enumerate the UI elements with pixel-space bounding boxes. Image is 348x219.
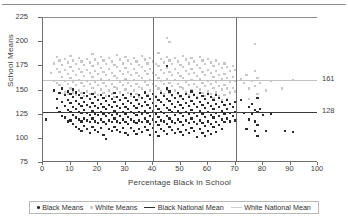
black-mean-point <box>193 94 195 96</box>
white-mean-point <box>188 84 190 86</box>
black-mean-point <box>80 120 82 122</box>
legend-item[interactable]: White Means <box>90 203 137 212</box>
black-mean-point <box>163 95 165 97</box>
legend-dot-icon <box>37 206 40 209</box>
black-mean-point <box>215 94 217 96</box>
black-mean-point <box>204 107 206 109</box>
white-mean-point <box>116 77 118 79</box>
black-mean-point <box>193 130 195 132</box>
black-mean-point <box>108 95 110 97</box>
white-mean-point <box>248 98 250 100</box>
black-mean-point <box>190 117 192 119</box>
white-mean-point <box>248 87 250 89</box>
black-mean-point <box>86 128 88 130</box>
black-mean-point <box>201 132 203 134</box>
white-mean-point <box>135 72 137 74</box>
chart-legend: Black MeansWhite MeansBlack National Mea… <box>29 201 319 214</box>
black-mean-point <box>119 107 121 109</box>
white-mean-point <box>243 82 245 84</box>
white-mean-point <box>105 85 107 87</box>
legend-item[interactable]: Black National Mean <box>144 203 223 212</box>
white-mean-point <box>116 54 118 56</box>
y-axis-tick-label: 150 <box>0 86 28 94</box>
white-mean-point <box>56 68 58 70</box>
black-mean-point <box>141 105 143 107</box>
black-mean-point <box>141 97 143 99</box>
black-mean-point <box>111 98 113 100</box>
white-mean-point <box>185 58 187 60</box>
black-mean-point <box>251 103 253 105</box>
black-mean-point <box>223 104 225 106</box>
black-mean-point <box>223 121 225 123</box>
x-axis-tick-mark <box>97 162 98 165</box>
black-mean-point <box>67 99 69 101</box>
black-mean-point <box>122 94 124 96</box>
x-axis-tick-label: 100 <box>305 165 329 173</box>
white-mean-point <box>67 61 69 63</box>
black-mean-point <box>133 96 135 98</box>
white-mean-point <box>94 58 96 60</box>
white-mean-point <box>177 72 179 74</box>
white-mean-point <box>111 72 113 74</box>
black-mean-point <box>196 106 198 108</box>
white-mean-point <box>144 70 146 72</box>
white-mean-point <box>232 87 234 89</box>
black-mean-point <box>111 121 113 123</box>
black-mean-point <box>157 135 159 137</box>
black-mean-point <box>75 100 77 102</box>
white-mean-point <box>210 72 212 74</box>
white-mean-point <box>223 62 225 64</box>
white-mean-point <box>157 52 159 54</box>
white-mean-point <box>207 69 209 71</box>
black-mean-point <box>105 123 107 125</box>
black-mean-point <box>163 120 165 122</box>
white-mean-point <box>201 71 203 73</box>
white-mean-point <box>163 72 165 74</box>
black-mean-point <box>218 124 220 126</box>
legend-item[interactable]: Black Means <box>37 203 83 212</box>
black-mean-point <box>215 131 217 133</box>
x-axis-tick-label: 90 <box>278 165 302 173</box>
black-mean-point <box>210 105 212 107</box>
black-mean-point <box>174 122 176 124</box>
scatter-plot-figure: School Means 75100125150175200225 010203… <box>0 0 348 219</box>
white-mean-point <box>174 89 176 91</box>
white-mean-point <box>215 59 217 61</box>
x-axis-tick-label: 70 <box>223 165 247 173</box>
black-mean-point <box>256 135 258 137</box>
black-mean-point <box>229 103 231 105</box>
black-mean-point <box>144 126 146 128</box>
black-mean-point <box>97 107 99 109</box>
white-mean-point <box>196 75 198 77</box>
black-mean-point <box>61 87 63 89</box>
plot-area <box>42 17 317 162</box>
white-mean-point <box>97 62 99 64</box>
white-mean-point <box>78 89 80 91</box>
black-mean-point <box>89 121 91 123</box>
legend-label: Black Means <box>42 203 83 212</box>
black-mean-point <box>188 96 190 98</box>
white-mean-point <box>78 57 80 59</box>
white-mean-point <box>171 63 173 65</box>
legend-item[interactable]: White National Mean <box>231 203 311 212</box>
white-mean-point <box>89 72 91 74</box>
white-mean-point <box>91 87 93 89</box>
white-mean-point <box>157 65 159 67</box>
top-rule-divider <box>2 4 346 5</box>
black-mean-point <box>72 96 74 98</box>
black-mean-point <box>127 123 129 125</box>
black-mean-point <box>226 108 228 110</box>
black-mean-point <box>168 100 170 102</box>
black-mean-point <box>135 99 137 101</box>
black-mean-point <box>185 129 187 131</box>
black-mean-point <box>174 114 176 116</box>
black-mean-point <box>199 128 201 130</box>
black-mean-point <box>160 101 162 103</box>
white-mean-point <box>193 83 195 85</box>
white-mean-point <box>166 56 168 58</box>
white-mean-point <box>58 84 60 86</box>
black-mean-point <box>177 118 179 120</box>
legend-label: White National Mean <box>244 203 311 212</box>
black-mean-point <box>149 123 151 125</box>
black-mean-point <box>166 87 168 89</box>
